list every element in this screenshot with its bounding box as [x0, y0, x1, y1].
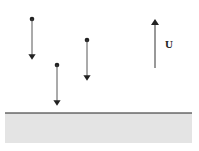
particle-2 [55, 63, 60, 103]
ground-surface [5, 113, 192, 143]
diagram-canvas [0, 0, 199, 151]
particle-3 [85, 38, 90, 78]
velocity-label: U [165, 38, 173, 50]
particle-1 [30, 17, 35, 57]
